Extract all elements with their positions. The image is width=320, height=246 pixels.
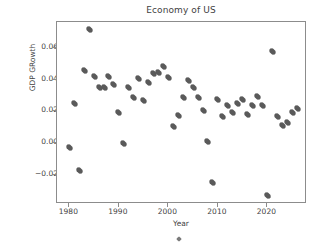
data-point [219, 113, 226, 120]
data-point [145, 79, 152, 86]
data-point [91, 73, 98, 80]
data-point [86, 26, 93, 33]
x-axis-tick-mark [68, 203, 69, 207]
data-point [289, 109, 296, 116]
data-point [125, 84, 132, 91]
x-axis-tick-label: 2010 [197, 207, 237, 216]
data-point [110, 80, 117, 87]
data-point [170, 123, 177, 130]
x-axis-tick-label: 2020 [246, 207, 286, 216]
data-point [115, 109, 122, 116]
data-point [185, 77, 192, 84]
stray-marker-icon [176, 236, 182, 242]
data-point [135, 75, 142, 82]
data-point [229, 109, 236, 116]
data-point [269, 48, 276, 55]
x-axis-tick-mark [167, 203, 168, 207]
data-point [239, 96, 246, 103]
data-point [199, 107, 206, 114]
data-point [175, 112, 182, 119]
data-point [120, 140, 127, 147]
data-point [130, 94, 137, 101]
data-point [180, 94, 187, 101]
data-point [259, 102, 266, 109]
data-point [254, 93, 261, 100]
data-point [71, 100, 78, 107]
data-point [66, 144, 73, 151]
data-point [214, 96, 221, 103]
data-point [249, 102, 256, 109]
x-axis-tick-mark [217, 203, 218, 207]
x-axis-tick-mark [118, 203, 119, 207]
data-point [105, 73, 112, 80]
page-title: Economy of US [56, 5, 306, 15]
plot-area [56, 21, 306, 203]
data-point [195, 94, 202, 101]
chart-figure: Economy of US GDP GRowth Year 0.060.040.… [0, 0, 320, 246]
data-point [264, 192, 271, 199]
x-axis-label: Year [56, 219, 306, 228]
data-point [244, 111, 251, 118]
x-axis-tick-mark [266, 203, 267, 207]
data-point [81, 67, 88, 74]
data-point [160, 63, 167, 70]
data-point [204, 137, 211, 144]
data-point [140, 96, 147, 103]
data-point [165, 74, 172, 81]
data-point [209, 179, 216, 186]
y-axis-label: GDP GRowth [28, 18, 37, 118]
x-axis-tick-label: 2000 [147, 207, 187, 216]
data-point [274, 113, 281, 120]
x-axis-tick-label: 1980 [48, 207, 88, 216]
data-point [76, 167, 83, 174]
x-axis-tick-label: 1990 [98, 207, 138, 216]
data-point [190, 84, 197, 91]
